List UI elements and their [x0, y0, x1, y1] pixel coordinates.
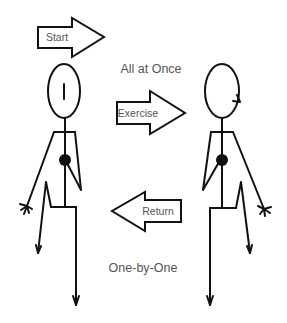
return-arrow: Return: [112, 192, 181, 231]
diagram-canvas: Start All at Once Exercise Return One-by…: [0, 0, 287, 323]
left-figure-hand-icon: [20, 204, 32, 214]
right-figure-hand-icon: [258, 206, 271, 216]
exercise-arrow-label: Exercise: [118, 107, 158, 119]
start-arrow: Start: [38, 18, 104, 57]
right-figure-leg-right: [236, 182, 250, 253]
left-figure-arm-left: [27, 132, 54, 206]
caption-all-at-once: All at Once: [120, 62, 181, 76]
caption-one-by-one: One-by-One: [109, 261, 178, 275]
right-stick-figure: [203, 64, 271, 305]
start-arrow-label: Start: [46, 31, 68, 43]
right-figure-chest-dot: [216, 154, 228, 166]
exercise-arrow: Exercise: [117, 91, 185, 134]
left-stick-figure: [20, 64, 81, 305]
right-figure-head: [205, 64, 239, 118]
left-figure-leg-left: [38, 182, 51, 253]
left-figure-chest-dot: [59, 154, 71, 166]
return-arrow-label: Return: [142, 205, 174, 217]
